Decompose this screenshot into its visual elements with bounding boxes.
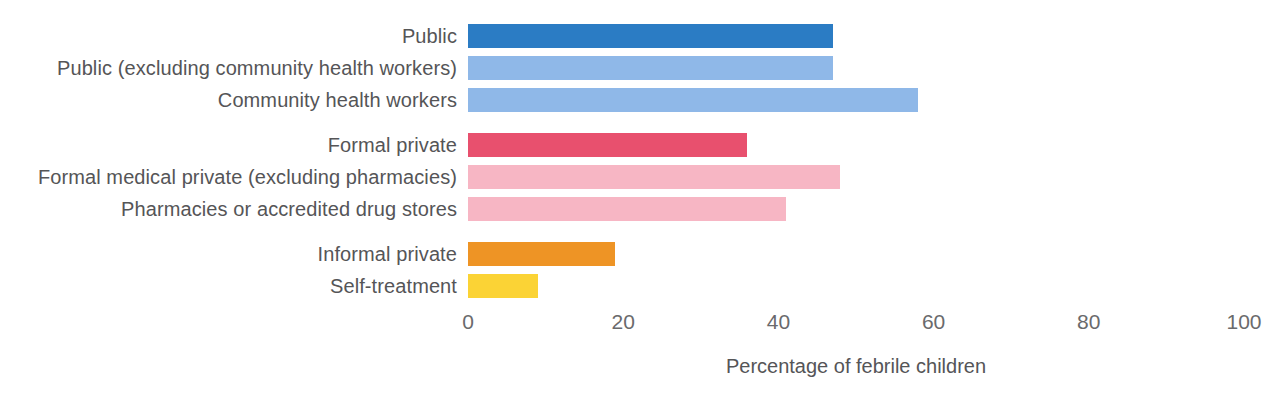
plot-area: PublicPublic (excluding community health… [0,0,1281,404]
x-tick-label: 60 [874,310,994,334]
bar-row: Formal private [0,131,1281,159]
bar-informal-private [468,242,615,266]
x-axis-title: Percentage of febrile children [468,355,1244,378]
bar-category-label: Informal private [318,240,457,268]
bar-row: Public (excluding community health worke… [0,54,1281,82]
bar-category-label: Public (excluding community health worke… [57,54,457,82]
x-axis-tick-labels: 020406080100 [0,310,1281,340]
bar-row: Informal private [0,240,1281,268]
x-tick-label: 80 [1029,310,1149,334]
bar-row: Formal medical private (excluding pharma… [0,163,1281,191]
bar-row: Public [0,22,1281,50]
bar-category-label: Formal medical private (excluding pharma… [38,163,457,191]
x-tick-label: 20 [563,310,683,334]
x-tick-label: 0 [408,310,528,334]
bar-row: Community health workers [0,86,1281,114]
x-tick-label: 40 [718,310,838,334]
bar-category-label: Public [402,22,457,50]
bar-row: Pharmacies or accredited drug stores [0,195,1281,223]
bar-formal-private [468,133,747,157]
bar-category-label: Formal private [328,131,457,159]
bar-category-label: Pharmacies or accredited drug stores [121,195,457,223]
bar-formal-private [468,165,840,189]
bar-public [468,88,918,112]
bar-public [468,56,833,80]
bar-self-treatment [468,274,538,298]
bar-category-label: Community health workers [218,86,457,114]
bar-row: Self-treatment [0,272,1281,300]
x-tick-label: 100 [1184,310,1281,334]
bar-category-label: Self-treatment [330,272,457,300]
bar-formal-private [468,197,786,221]
bar-chart: PublicPublic (excluding community health… [0,0,1281,404]
bar-public [468,24,833,48]
